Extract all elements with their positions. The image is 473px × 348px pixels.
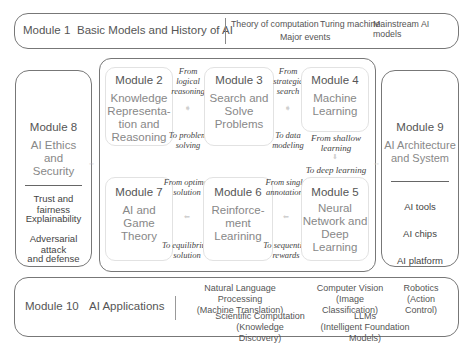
- module10-title: AI Applications: [89, 300, 164, 312]
- arrow-left-icon: ⬅: [280, 213, 292, 221]
- module1-topic: Major events: [280, 32, 330, 42]
- arrow-left-icon: ⬅: [181, 213, 193, 221]
- module8-item: and defense: [16, 253, 91, 264]
- app-name: Computer Vision: [310, 283, 390, 294]
- module2-box: Module 2 Knowledge Representa- tion and …: [105, 67, 173, 146]
- module1-box: Module 1 Basic Models and History of AI …: [14, 13, 459, 49]
- module1-divider: [225, 18, 226, 44]
- module8-item: Adversarial attack: [16, 233, 91, 255]
- transition-text: modeling: [268, 140, 308, 150]
- module8-title-line: AI Ethics: [16, 139, 91, 152]
- connector-icon: ◦◦: [89, 160, 94, 167]
- module4-label: Module 4: [302, 74, 368, 86]
- module10-label: Module 10: [25, 300, 79, 312]
- module9-item: AI tools: [382, 201, 458, 212]
- module5-label: Module 5: [302, 186, 368, 198]
- arrow-right-icon: ➧: [182, 103, 194, 113]
- app-name: LLMs: [305, 311, 425, 322]
- module6-line: Reinforce-: [204, 204, 272, 217]
- connector-icon: ◦◦: [374, 160, 379, 167]
- module9-label: Module 9: [382, 121, 458, 133]
- module2-line: tion and: [106, 118, 172, 131]
- module7-line: AI and: [106, 204, 172, 217]
- app-name: Natural Language Processing: [185, 283, 295, 305]
- module10-divider: [175, 296, 176, 320]
- module9-divider: [391, 181, 449, 182]
- module6-label: Module 6: [204, 186, 272, 198]
- app-item: Scientific Computation (Knowledge Discov…: [215, 311, 305, 344]
- transition-3-4-to: To data modeling: [268, 130, 308, 150]
- transition-4-5-from: From shallow learning: [306, 133, 366, 153]
- app-detail: (Knowledge Discovery): [215, 322, 305, 344]
- module4-line: Learning: [302, 105, 368, 118]
- module8-title-line: Security: [16, 165, 91, 178]
- module9-title-line: and System: [382, 152, 458, 165]
- module7-line: Game: [106, 217, 172, 230]
- arrow-down-icon: ⬇: [329, 153, 341, 161]
- transition-text: To data: [268, 130, 308, 140]
- transition-text: learning: [306, 143, 366, 153]
- module2-line: Knowledge: [106, 92, 172, 105]
- module8-item: Explainability: [16, 213, 91, 224]
- transition-4-5-to: To deep learning: [300, 165, 372, 175]
- module3-line: Solve: [205, 105, 273, 118]
- module5-line: Learning: [302, 241, 368, 254]
- module1-title: Basic Models and History of AI: [77, 24, 233, 36]
- module1-label: Module 1: [23, 24, 70, 36]
- module9-item: AI chips: [382, 228, 458, 239]
- module1-topic: Mainstream AI models: [373, 19, 458, 39]
- module3-line: Problems: [205, 118, 273, 131]
- module8-item: Trust and fairness: [16, 193, 91, 215]
- module2-line: Reasoning: [106, 131, 172, 144]
- module5-line: Network and: [302, 215, 368, 228]
- module2-line: Representa-: [106, 105, 172, 118]
- module9-title-line: AI Architecture: [380, 139, 460, 152]
- module4-line: Machine: [302, 92, 368, 105]
- app-name: Scientific Computation: [215, 311, 305, 322]
- module10-box: Module 10 AI Applications Natural Langua…: [14, 277, 459, 337]
- module8-divider: [25, 185, 82, 186]
- app-name: Robotics: [391, 283, 451, 294]
- module8-label: Module 8: [16, 121, 91, 133]
- module6-line: ment: [204, 217, 272, 230]
- arrow-right-icon: ➧: [282, 103, 294, 113]
- module5-line: Deep: [302, 228, 368, 241]
- module8-box: Module 8 AI Ethics and Security Trust an…: [15, 70, 92, 267]
- module8-title-line: and: [16, 152, 91, 165]
- app-detail: (Intelligent Foundation Models): [305, 322, 425, 344]
- module1-topic: Turing machine: [320, 19, 380, 29]
- transition-text: To deep learning: [300, 165, 372, 175]
- module9-box: Module 9 AI Architecture and System AI t…: [381, 70, 459, 267]
- module1-topic: Theory of computation: [231, 19, 319, 29]
- transition-text: solving: [166, 140, 210, 150]
- app-item: LLMs (Intelligent Foundation Models): [305, 311, 425, 344]
- module5-box: Module 5 Neural Network and Deep Learnin…: [301, 177, 369, 261]
- module5-line: Neural: [302, 202, 368, 215]
- module2-label: Module 2: [106, 74, 172, 86]
- transition-text: From shallow: [306, 133, 366, 143]
- module4-box: Module 4 Machine Learning: [301, 67, 369, 132]
- module9-item: AI platform: [382, 255, 458, 266]
